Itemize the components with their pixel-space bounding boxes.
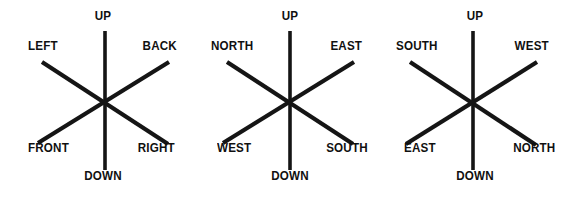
axis-label-upper-left: LEFT xyxy=(28,40,58,53)
axis-label-lower-left: WEST xyxy=(217,142,251,155)
axis-label-lower-left: EAST xyxy=(404,142,436,155)
axis-label-lower-right: SOUTH xyxy=(326,142,368,155)
axes-figure: UP LEFT BACK FRONT RIGHT DOWN UP NORTH E… xyxy=(0,0,580,200)
axis-label-upper-right: BACK xyxy=(143,40,177,53)
axis-label-lower-right: NORTH xyxy=(513,142,555,155)
axis-label-up: UP xyxy=(466,10,483,23)
axis-label-lower-left: FRONT xyxy=(28,142,69,155)
axis-diagram-2: UP NORTH EAST WEST SOUTH DOWN xyxy=(193,0,386,200)
axis-label-down: DOWN xyxy=(271,170,309,183)
axis-label-down: DOWN xyxy=(84,170,122,183)
axis-label-up: UP xyxy=(281,10,298,23)
axis-label-upper-right: WEST xyxy=(515,40,549,53)
axis-label-upper-left: SOUTH xyxy=(396,40,438,53)
axis-diagram-3: UP SOUTH WEST EAST NORTH DOWN xyxy=(378,0,571,200)
axis-label-upper-left: NORTH xyxy=(211,40,253,53)
axis-label-lower-right: RIGHT xyxy=(138,142,175,155)
axis-diagram-1: UP LEFT BACK FRONT RIGHT DOWN xyxy=(6,0,199,200)
axis-label-upper-right: EAST xyxy=(330,40,362,53)
axis-label-down: DOWN xyxy=(456,170,494,183)
axis-label-up: UP xyxy=(94,10,111,23)
